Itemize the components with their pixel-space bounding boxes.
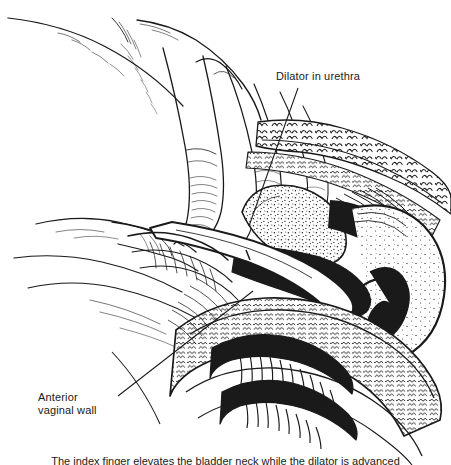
figure-root: Dilator in urethra Anterior vaginal wall… [0,0,451,465]
figure-caption: The index finger elevates the bladder ne… [0,455,451,465]
label-anterior-vaginal-wall: Anterior vaginal wall [38,391,97,417]
label-dilator-in-urethra: Dilator in urethra [276,70,360,83]
